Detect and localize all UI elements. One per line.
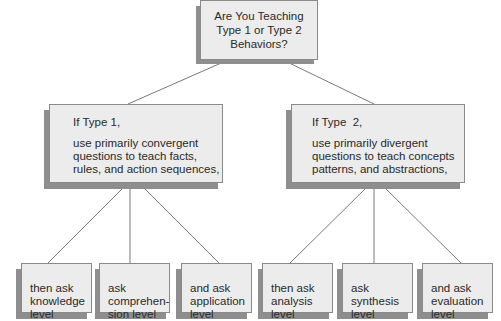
leaf-evaluation-box: and ask evaluation level	[422, 263, 493, 313]
type2-heading: If Type 2,	[312, 116, 464, 129]
type1-box: If Type 1, use primarily convergent ques…	[49, 104, 223, 183]
connector-root-to-type2	[283, 60, 374, 104]
leaf-synthesis-box: ask synthesis level	[342, 263, 413, 313]
connector-type2-to-evaluation	[384, 187, 461, 263]
connector-type1-to-application	[143, 187, 219, 263]
type1-heading: If Type 1,	[73, 116, 222, 129]
root-question-box: Are You Teaching Type 1 or Type 2 Behavi…	[200, 0, 318, 60]
root-question-text: Are You Teaching Type 1 or Type 2 Behavi…	[214, 10, 303, 50]
type1-description: use primarily convergent questions to te…	[73, 137, 222, 176]
leaf-knowledge-box: then ask knowledge level	[21, 263, 92, 313]
leaf-analysis-box: then ask analysis level	[262, 263, 333, 313]
connector-type1-to-knowledge	[48, 187, 124, 263]
type2-description: use primarily divergent questions to tea…	[312, 137, 464, 176]
leaf-comprehension-box: ask comprehen- sion level	[99, 263, 170, 313]
connector-type2-to-analysis	[290, 187, 367, 263]
connector-root-to-type1	[128, 60, 228, 104]
leaf-application-box: and ask application level	[181, 263, 252, 313]
type2-box: If Type 2, use primarily divergent quest…	[291, 104, 465, 183]
